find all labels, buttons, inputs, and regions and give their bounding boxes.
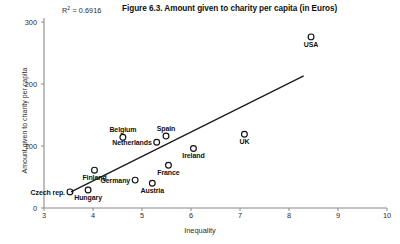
chart-figure: R2 = 0.6916 Figure 6.3. Amount given to … <box>0 0 400 244</box>
x-axis-label: Inequality <box>0 226 400 235</box>
y-tick-label: 300 <box>11 18 37 27</box>
data-point-label: Germany <box>100 177 130 184</box>
x-tick-label: 7 <box>231 211 249 220</box>
data-point-label: Ireland <box>182 152 204 159</box>
r-squared-annotation: R2 = 0.6916 <box>62 5 101 15</box>
data-point-marker-hitbox[interactable] <box>90 166 99 175</box>
y-tick-label: 0 <box>11 204 37 213</box>
data-point-label: Austria <box>141 187 164 194</box>
data-point-marker-hitbox[interactable] <box>162 132 171 141</box>
data-point-marker-hitbox[interactable] <box>307 32 316 41</box>
data-point-marker-hitbox[interactable] <box>164 161 173 170</box>
x-tick-label: 4 <box>84 211 102 220</box>
data-point-marker-hitbox[interactable] <box>84 186 93 195</box>
plot-canvas <box>0 0 400 244</box>
x-tick-label: 9 <box>329 211 347 220</box>
data-point-marker-hitbox[interactable] <box>240 130 249 139</box>
y-tick-label: 200 <box>11 80 37 89</box>
y-axis-label: Amount given to charity per capita <box>21 51 28 191</box>
data-markers <box>67 34 314 195</box>
data-point-marker-hitbox[interactable] <box>65 187 74 196</box>
x-tick-label: 3 <box>35 211 53 220</box>
data-point-label: UK <box>239 138 249 145</box>
x-tick-label: 6 <box>182 211 200 220</box>
data-point-marker-hitbox[interactable] <box>131 176 140 185</box>
x-tick-label: 8 <box>280 211 298 220</box>
chart-title: Figure 6.3. Amount given to charity per … <box>122 4 337 13</box>
data-point-label: France <box>157 169 179 176</box>
data-point-label: Hungary <box>74 194 102 201</box>
data-point-marker-hitbox[interactable] <box>118 133 127 142</box>
data-point-label: USA <box>304 41 318 48</box>
r-squared-value: = 0.6916 <box>70 6 101 15</box>
x-tick-label: 10 <box>378 211 396 220</box>
data-point-marker-hitbox[interactable] <box>189 144 198 153</box>
y-tick-label: 100 <box>11 142 37 151</box>
x-tick-label: 5 <box>133 211 151 220</box>
axis-ticks <box>41 22 387 211</box>
data-point-marker-hitbox[interactable] <box>148 179 157 188</box>
data-point-label: Czech rep. <box>31 188 65 195</box>
data-point-marker-hitbox[interactable] <box>152 138 161 147</box>
